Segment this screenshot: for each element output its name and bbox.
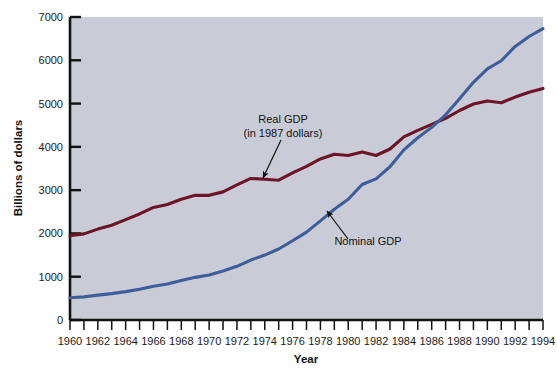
y-tick-label-0: 0 [57,314,63,326]
x-axis-title: Year [294,353,319,365]
x-tick-label-1976: 1976 [280,335,304,347]
plot-area-background [70,17,543,320]
y-tick-label-2000: 2000 [39,227,63,239]
x-tick-label-1990: 1990 [475,335,499,347]
chart-screenshot: 01000200030004000500060007000 Billions o… [0,0,557,374]
y-axis-title: Billions of dollars [12,120,24,216]
x-tick-label-1994: 1994 [531,335,555,347]
y-tick-label-3000: 3000 [39,184,63,196]
x-tick-label-1962: 1962 [86,335,110,347]
y-tick-label-5000: 5000 [39,98,63,110]
x-tick-label-1986: 1986 [419,335,443,347]
y-tick-label-6000: 6000 [39,54,63,66]
x-tick-label-1978: 1978 [308,335,332,347]
x-tick-label-1964: 1964 [113,335,137,347]
x-tick-label-1992: 1992 [503,335,527,347]
y-tick-label-4000: 4000 [39,141,63,153]
real-gdp-annotation-line1: Real GDP [258,113,308,125]
y-tick-label-7000: 7000 [39,11,63,23]
x-tick-label-1984: 1984 [392,335,416,347]
nominal-gdp-annotation-line1: Nominal GDP [334,235,401,247]
x-tick-label-1988: 1988 [447,335,471,347]
x-tick-label-1972: 1972 [225,335,249,347]
x-tick-label-1982: 1982 [364,335,388,347]
real-gdp-annotation-line2: (in 1987 dollars) [244,127,323,139]
x-tick-label-1960: 1960 [58,335,82,347]
x-tick-label-1966: 1966 [141,335,165,347]
x-tick-label-1974: 1974 [253,335,277,347]
x-tick-label-1968: 1968 [169,335,193,347]
x-tick-label-1970: 1970 [197,335,221,347]
x-tick-label-1980: 1980 [336,335,360,347]
y-tick-label-1000: 1000 [39,271,63,283]
gdp-line-chart: 01000200030004000500060007000 Billions o… [0,0,557,374]
